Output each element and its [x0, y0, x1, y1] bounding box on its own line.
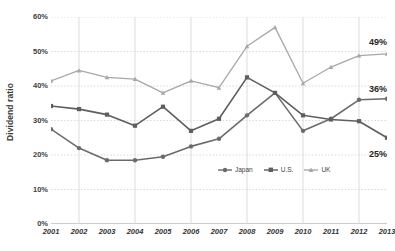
data-point: [77, 146, 81, 150]
data-point: [161, 105, 165, 109]
data-point: [329, 117, 333, 121]
data-point: [385, 136, 387, 140]
data-point: [105, 113, 109, 117]
chart-plot-svg: [51, 17, 387, 224]
data-point: [105, 158, 109, 162]
y-tick-label: 50%: [22, 48, 48, 56]
data-point: [189, 144, 193, 148]
series-line-japan: [51, 93, 387, 160]
x-tick-label: 2013: [379, 228, 395, 236]
data-point: [301, 113, 305, 117]
y-tick-label: 30%: [22, 117, 48, 125]
legend-label: UK: [321, 167, 330, 174]
end-value-label-japan: 36%: [369, 85, 387, 94]
x-tick-label: 2005: [155, 228, 172, 236]
data-point: [161, 155, 165, 159]
chart-legend: JapanU.S.UK: [218, 166, 330, 174]
data-point: [357, 119, 361, 123]
data-point: [217, 117, 221, 121]
legend-marker-icon: [304, 166, 318, 174]
data-point: [357, 98, 361, 102]
x-tick-label: 2011: [323, 228, 339, 236]
x-axis-tick-labels: 2001200220032004200520062007200820092010…: [51, 228, 387, 248]
data-point: [189, 129, 193, 133]
data-point: [273, 91, 277, 95]
data-point: [217, 137, 221, 141]
series-line-uk: [51, 27, 387, 93]
x-tick-label: 2012: [351, 228, 368, 236]
x-tick-label: 2007: [211, 228, 228, 236]
x-tick-label: 2008: [239, 228, 256, 236]
data-point: [273, 25, 278, 29]
legend-marker-icon: [218, 166, 232, 174]
plot-area: [51, 17, 387, 224]
data-point: [133, 124, 137, 128]
legend-marker-icon: [264, 166, 278, 174]
x-tick-label: 2004: [127, 228, 144, 236]
legend-entry-japan[interactable]: Japan: [218, 166, 253, 174]
data-point: [301, 129, 305, 133]
x-tick-label: 2009: [267, 228, 284, 236]
legend-entry-us[interactable]: U.S.: [264, 166, 294, 174]
data-point: [77, 107, 81, 111]
x-tick-label: 2002: [71, 228, 88, 236]
data-point: [245, 113, 249, 117]
data-point: [385, 97, 387, 101]
x-tick-label: 2001: [43, 228, 60, 236]
y-tick-label: 40%: [22, 82, 48, 90]
legend-label: U.S.: [281, 167, 294, 174]
end-value-label-us: 25%: [369, 150, 387, 159]
y-tick-label: 10%: [22, 186, 48, 194]
x-tick-label: 2003: [99, 228, 116, 236]
x-tick-label: 2010: [295, 228, 312, 236]
data-point: [245, 75, 249, 79]
legend-entry-uk[interactable]: UK: [304, 166, 330, 174]
legend-label: Japan: [235, 167, 253, 174]
y-axis-tick-labels: 60%50%40%30%20%10%0%: [0, 0, 48, 251]
x-tick-label: 2006: [183, 228, 200, 236]
end-value-label-uk: 49%: [369, 38, 387, 47]
y-tick-label: 60%: [22, 13, 48, 21]
y-tick-label: 20%: [22, 151, 48, 159]
data-point: [51, 104, 53, 108]
data-point: [133, 158, 137, 162]
